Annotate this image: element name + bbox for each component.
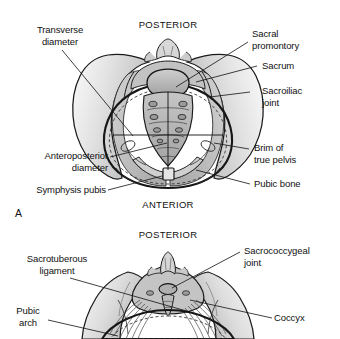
panel-b-orientation-posterior: POSTERIOR [128,229,208,240]
panel-a-orientation-posterior: POSTERIOR [128,19,208,30]
label-sacroiliac-joint: Sacroiliac joint [262,85,336,108]
label-symphysis-pubis: Symphysis pubis [16,184,106,196]
b-sacrococcygeal-joint-shape [159,284,177,295]
sacral-foramen-l4 [157,139,163,143]
vertebra-process-right [179,52,191,62]
label-transverse-diameter: Transverse diameter [22,24,98,47]
label-sacrum: Sacrum [262,60,336,72]
label-pubic-bone: Pubic bone [254,178,334,190]
sacral-foramen-l2 [150,114,158,119]
sacral-foramen-r3 [175,128,182,133]
sacral-foramen-r4 [173,139,179,143]
label-sacrotuberous-ligament: Sacrotuberous ligament [14,253,100,276]
pelvis-anatomy-figure: POSTERIOR Transverse diameter Sacral pro… [0,0,340,339]
panel-a-orientation-anterior: ANTERIOR [128,199,208,210]
sacral-foramen-l3 [153,128,160,133]
label-sacrococcygeal-joint: Sacrococcygeal joint [244,245,338,268]
sacral-foramen-r2 [178,114,186,119]
symphysis-pubis-shape [163,168,174,180]
panel-a-letter: A [15,207,22,219]
sacral-foramen-r1 [179,101,187,106]
label-coccyx: Coccyx [274,312,334,324]
b-foramen-right [182,291,189,296]
label-pubic-arch: Pubic arch [6,305,50,328]
label-anteroposterior-diameter: Anteroposterior diameter [16,150,108,173]
lumbar-vertebra [157,39,180,59]
label-brim-of-true-pelvis: Brim of true pelvis [254,142,336,165]
b-sacral-crest [161,252,176,274]
vertebra-process-left [145,52,157,62]
label-sacral-promontory: Sacral promontory [252,28,336,51]
sacral-foramen-l1 [149,101,157,106]
b-foramen-left [146,291,153,296]
